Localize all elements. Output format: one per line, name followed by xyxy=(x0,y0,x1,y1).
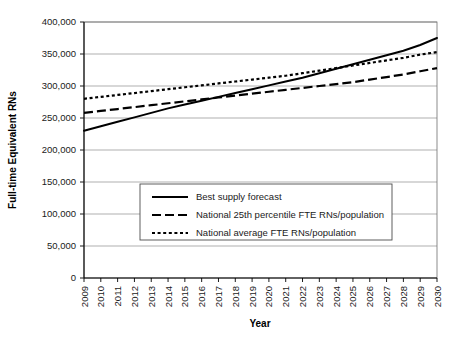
y-tick-label: 200,000 xyxy=(42,144,76,155)
y-tick-marks xyxy=(80,22,84,278)
x-tick-label: 2022 xyxy=(297,286,308,307)
line-chart-canvas: Full-time Equivalent RNs 050,000100,0001… xyxy=(0,0,460,343)
x-axis-title: Year xyxy=(249,318,270,329)
y-axis-title: Full-time Equivalent RNs xyxy=(7,91,18,209)
y-tick-label: 400,000 xyxy=(42,16,76,27)
x-tick-label: 2030 xyxy=(432,286,443,307)
legend-label-3: National average FTE RNs/population xyxy=(196,227,356,238)
y-tick-label: 350,000 xyxy=(42,48,76,59)
x-tick-label: 2026 xyxy=(364,286,375,307)
series-line-2 xyxy=(84,68,437,113)
x-tick-label: 2017 xyxy=(213,286,224,307)
series-line-1 xyxy=(84,38,437,131)
x-tick-label: 2027 xyxy=(381,286,392,307)
x-tick-label: 2020 xyxy=(263,286,274,307)
x-tick-label: 2009 xyxy=(79,286,90,307)
x-tick-label: 2025 xyxy=(347,286,358,307)
y-tick-label: 250,000 xyxy=(42,112,76,123)
x-tick-label: 2028 xyxy=(398,286,409,307)
data-series-group xyxy=(84,38,437,131)
x-tick-labels: 2009201020112012201320142015201620172018… xyxy=(79,286,443,307)
x-tick-label: 2023 xyxy=(314,286,325,307)
page-edge-artifact xyxy=(0,334,460,343)
x-tick-label: 2016 xyxy=(196,286,207,307)
y-tick-label: 300,000 xyxy=(42,80,76,91)
x-tick-label: 2024 xyxy=(331,286,342,307)
y-tick-label: 0 xyxy=(71,272,76,283)
legend-label-1: Best supply forecast xyxy=(196,191,282,202)
x-tick-label: 2010 xyxy=(95,286,106,307)
x-tick-label: 2014 xyxy=(163,286,174,307)
y-tick-labels: 050,000100,000150,000200,000250,000300,0… xyxy=(42,16,76,283)
x-tick-label: 2018 xyxy=(230,286,241,307)
x-tick-label: 2029 xyxy=(415,286,426,307)
x-tick-label: 2015 xyxy=(179,286,190,307)
x-tick-marks xyxy=(84,278,437,282)
legend: Best supply forecastNational 25th percen… xyxy=(140,184,392,240)
x-tick-label: 2021 xyxy=(280,286,291,307)
x-tick-label: 2011 xyxy=(112,286,123,306)
y-tick-label: 100,000 xyxy=(42,208,76,219)
x-tick-label: 2012 xyxy=(129,286,140,307)
x-tick-label: 2013 xyxy=(146,286,157,307)
x-tick-label: 2019 xyxy=(247,286,258,307)
y-tick-label: 50,000 xyxy=(47,240,76,251)
chart-figure: Full-time Equivalent RNs 050,000100,0001… xyxy=(0,0,460,343)
y-tick-label: 150,000 xyxy=(42,176,76,187)
y-axis-title-group: Full-time Equivalent RNs xyxy=(7,91,18,209)
legend-label-2: National 25th percentile FTE RNs/populat… xyxy=(196,209,384,220)
